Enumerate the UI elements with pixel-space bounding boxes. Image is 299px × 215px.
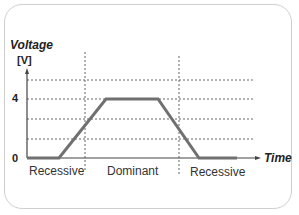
- region-label-recessive-1: Recessive: [29, 164, 84, 178]
- y-axis-unit: [V]: [17, 54, 32, 66]
- x-axis-arrow-icon: [255, 156, 261, 160]
- horizontal-gridlines: [27, 80, 255, 139]
- y-tick-0: 0: [12, 152, 18, 164]
- signal-chart: [0, 0, 299, 215]
- y-axis-title: Voltage: [10, 38, 53, 52]
- signal-trace: [27, 99, 237, 158]
- y-axis-arrow-icon: [25, 68, 29, 74]
- region-label-dominant: Dominant: [107, 164, 158, 178]
- y-tick-4: 4: [12, 92, 18, 104]
- axes: [27, 72, 256, 158]
- region-label-recessive-2: Recessive: [190, 165, 245, 179]
- x-axis-title: Time: [264, 151, 292, 165]
